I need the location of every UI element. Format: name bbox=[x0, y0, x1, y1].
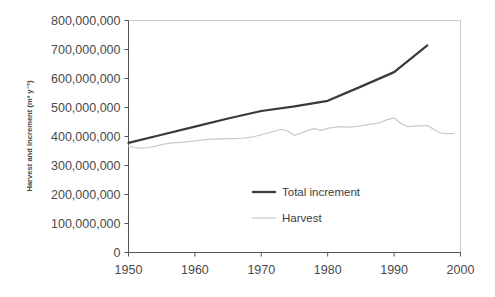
x-axis-tick-label: 1980 bbox=[314, 263, 342, 277]
y-axis-tick-label: 400,000,000 bbox=[51, 130, 121, 144]
line-chart-figure: 0100,000,000200,000,000300,000,000400,00… bbox=[0, 0, 495, 297]
y-axis-title: Harvest and increment (m³ y⁻¹) bbox=[25, 80, 34, 192]
data-series-group bbox=[129, 45, 454, 148]
series-line-total-increment bbox=[129, 45, 428, 142]
x-axis-tick-group: 195019601970198019902000 bbox=[115, 253, 475, 277]
y-axis-tick-label: 600,000,000 bbox=[51, 72, 121, 86]
y-axis-tick-label: 200,000,000 bbox=[51, 188, 121, 202]
legend-label-total-increment: Total increment bbox=[282, 186, 361, 198]
y-axis-tick-label: 100,000,000 bbox=[51, 217, 121, 231]
y-axis-tick-label: 300,000,000 bbox=[51, 159, 121, 173]
x-axis-tick-label: 1970 bbox=[247, 263, 275, 277]
chart-legend: Total incrementHarvest bbox=[252, 186, 361, 224]
x-axis-tick-label: 1990 bbox=[380, 263, 408, 277]
chart-canvas: 0100,000,000200,000,000300,000,000400,00… bbox=[0, 0, 495, 297]
y-axis-tick-label: 500,000,000 bbox=[51, 101, 121, 115]
x-axis-tick-label: 2000 bbox=[447, 263, 475, 277]
y-axis-tick-label: 0 bbox=[114, 246, 121, 260]
y-axis-title-group: Harvest and increment (m³ y⁻¹) bbox=[25, 80, 34, 192]
series-line-harvest bbox=[129, 118, 454, 148]
x-axis-tick-label: 1950 bbox=[115, 263, 143, 277]
y-axis-tick-group: 0100,000,000200,000,000300,000,000400,00… bbox=[51, 14, 129, 260]
y-axis-tick-label: 800,000,000 bbox=[51, 14, 121, 28]
y-axis-tick-label: 700,000,000 bbox=[51, 43, 121, 57]
x-axis-tick-label: 1960 bbox=[181, 263, 209, 277]
legend-label-harvest: Harvest bbox=[282, 212, 322, 224]
